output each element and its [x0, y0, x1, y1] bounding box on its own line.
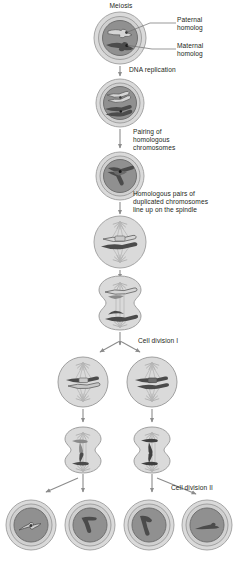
gamete-4	[182, 500, 232, 550]
gamete-1	[6, 500, 56, 550]
stage-5-anaphase-one-cell	[99, 276, 141, 330]
page-title: Meiosis	[95, 2, 147, 10]
label-dna-replication: DNA replication	[129, 66, 215, 74]
gamete-2	[65, 500, 115, 550]
stage-1-diploid-cell	[94, 12, 176, 64]
label-paternal-homolog: Paternal homolog	[177, 16, 235, 32]
diagram-canvas	[0, 0, 236, 565]
meiosis-diagram: Meiosis Paternal homolog Maternal homolo…	[0, 0, 236, 565]
label-maternal-homolog: Maternal homolog	[177, 42, 235, 58]
stage-2-replicated-cell	[96, 79, 144, 127]
label-homologous-pairs-line-up: Homologous pairs of duplicated chromosom…	[133, 190, 233, 215]
stage-6-left-daughter-cell	[58, 357, 108, 407]
arrow-cell-division-one-split	[100, 332, 140, 352]
label-cell-division-two: Cell division II	[171, 484, 236, 492]
gamete-3	[124, 500, 174, 550]
label-cell-division-one: Cell division I	[138, 337, 208, 345]
label-pairing-homologous-chromosomes: Pairing of homologous chromosomes	[133, 128, 213, 153]
stage-7-left-anaphase-two-cell	[65, 427, 101, 473]
stage-7-right-anaphase-two-cell	[134, 427, 170, 473]
stage-6-right-daughter-cell	[127, 357, 177, 407]
stage-4-metaphase-one-cell	[94, 216, 146, 268]
